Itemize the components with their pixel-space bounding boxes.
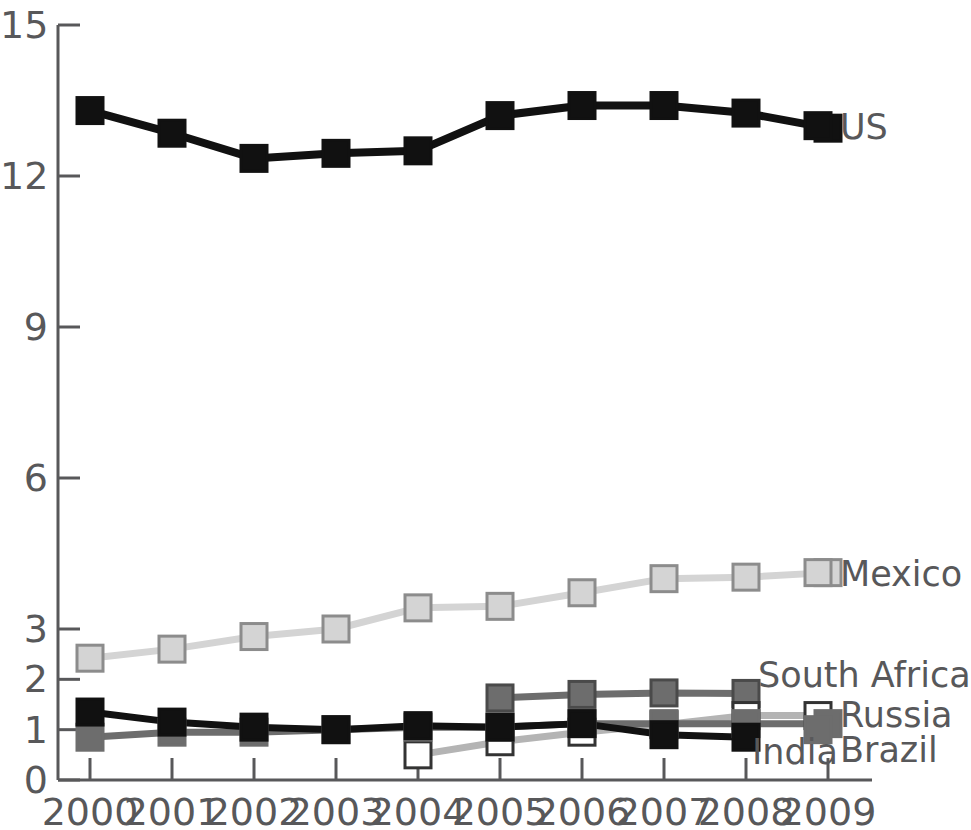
y-tick-label-2: 2 (0, 660, 48, 698)
y-tick-label-15: 15 (0, 6, 48, 44)
data-series (77, 93, 841, 768)
y-tick-label-12: 12 (0, 157, 48, 195)
y-tick-label-3: 3 (0, 610, 48, 648)
series-label-brazil: Brazil (840, 733, 938, 768)
y-tick-label-6: 6 (0, 459, 48, 497)
x-tick-label-2009: 2009 (780, 793, 877, 830)
y-tick-label-9: 9 (0, 308, 48, 346)
series-label-us: US (840, 110, 888, 145)
series-label-russia: Russia (840, 698, 953, 733)
series-label-india: India (752, 735, 838, 770)
y-tick-label-1: 1 (0, 711, 48, 749)
series-label-mexico: Mexico (840, 557, 962, 592)
series-label-south-africa: South Africa (758, 658, 971, 693)
